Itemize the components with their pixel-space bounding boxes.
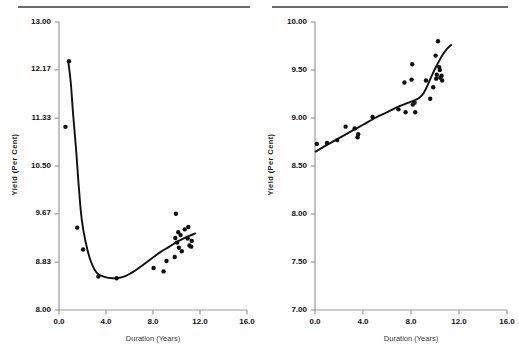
y-tick-label: 7.00 xyxy=(256,305,307,314)
y-tick-label: 9.50 xyxy=(256,65,307,74)
x-axis-title-left: Duration (Years) xyxy=(49,334,257,343)
y-tick-label: 13.00 xyxy=(0,17,51,26)
y-tick-label: 8.00 xyxy=(0,305,51,314)
y-tick-label: 10.00 xyxy=(256,17,307,26)
chart-panel-right: Yield (Per Cent) Duration (Years) 7.007.… xyxy=(256,0,512,364)
x-tick-label: 8.0 xyxy=(393,317,429,326)
x-tick-label: 4.0 xyxy=(88,317,124,326)
x-tick-label: 4.0 xyxy=(345,317,381,326)
y-tick-label: 8.50 xyxy=(256,161,307,170)
y-tick-label: 8.00 xyxy=(256,209,307,218)
x-tick-label: 16.0 xyxy=(489,317,519,326)
x-axis-title-right: Duration (Years) xyxy=(305,334,517,343)
x-tick-label: 12.0 xyxy=(441,317,477,326)
x-tick-label: 8.0 xyxy=(135,317,171,326)
y-tick-label: 8.83 xyxy=(0,257,51,266)
x-tick-label: 0.0 xyxy=(297,317,333,326)
y-tick-label: 11.33 xyxy=(0,113,51,122)
y-tick-label: 9.00 xyxy=(256,113,307,122)
x-tick-label: 12.0 xyxy=(182,317,218,326)
chart-panel-left: Yield (Per Cent) Duration (Years) 8.008.… xyxy=(0,0,256,364)
y-tick-label: 10.50 xyxy=(0,161,51,170)
x-tick-label: 0.0 xyxy=(41,317,77,326)
y-tick-label: 9.67 xyxy=(0,208,51,217)
y-tick-label: 7.50 xyxy=(256,257,307,266)
y-tick-label: 12.17 xyxy=(0,64,51,73)
